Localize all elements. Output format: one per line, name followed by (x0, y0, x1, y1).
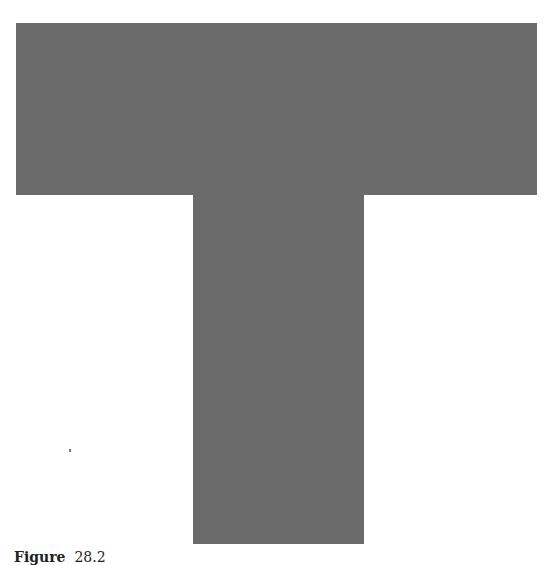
figure-caption: Figure 28.2 (14, 549, 106, 565)
scan-speck (69, 449, 71, 452)
figure-caption-number: 28.2 (74, 549, 105, 565)
t-shape-top-bar (16, 23, 537, 195)
figure-caption-label: Figure (14, 549, 66, 565)
t-shape-stem (193, 195, 364, 544)
